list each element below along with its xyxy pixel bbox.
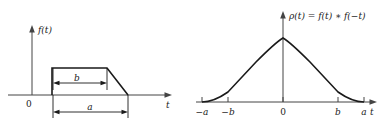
- right-horizontal-axis-label: t: [370, 107, 374, 117]
- tick-label-origin: 0: [280, 107, 286, 117]
- dimension-b-label: b: [74, 73, 80, 83]
- left-origin-label: 0: [26, 99, 32, 109]
- panel-autocorrelation: ρ(t) = f(t) ∗ f(−t) t −a −b 0 b a: [196, 0, 392, 130]
- tick-label-a: a: [361, 107, 366, 117]
- left-horizontal-axis: [8, 92, 172, 98]
- dimension-a: a: [53, 95, 128, 118]
- left-horizontal-axis-label: t: [166, 100, 170, 110]
- figure-root: f(t) t 0 b a: [0, 0, 392, 130]
- tick-label-neg-b: −b: [221, 107, 235, 117]
- right-axis-ticks: [202, 97, 364, 102]
- right-horizontal-axis: [196, 99, 377, 105]
- panel-trapezoidal-pulse: f(t) t 0 b a: [0, 0, 196, 130]
- tick-label-neg-a: −a: [196, 107, 208, 117]
- right-vertical-axis: [280, 11, 286, 102]
- trapezoid-waveform: [52, 68, 128, 95]
- dimension-a-label: a: [87, 102, 92, 112]
- right-vertical-axis-label: ρ(t) = f(t) ∗ f(−t): [288, 11, 366, 21]
- tick-label-b: b: [335, 107, 341, 117]
- left-vertical-axis: [29, 25, 35, 95]
- left-vertical-axis-label: f(t): [37, 25, 52, 35]
- dimension-b: b: [53, 68, 107, 90]
